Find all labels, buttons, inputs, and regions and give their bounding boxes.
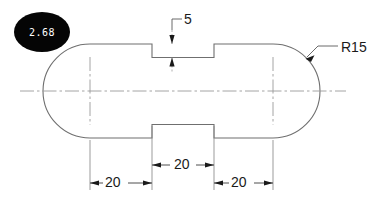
- dimension-label-segment-right: 20: [231, 175, 247, 189]
- arrowhead-right-a: [214, 181, 223, 186]
- arrowhead-notch-down: [169, 35, 174, 44]
- centerlines: [20, 57, 346, 125]
- arrowhead-middle-left: [152, 163, 161, 168]
- arrowhead-notch-up: [169, 58, 174, 67]
- dimension-segment-left: [90, 181, 152, 186]
- score-badge: 2.68: [14, 12, 70, 52]
- dimension-notch-depth: [169, 19, 182, 72]
- dimension-label-notch-depth: 5: [184, 12, 192, 26]
- leader-line-radius: [307, 46, 338, 57]
- score-badge-value: 2.68: [14, 12, 70, 52]
- dimension-radius: [306, 46, 339, 62]
- technical-drawing-screenshot: 5 R15 20 20 20 2.68: [0, 0, 377, 198]
- dimension-label-segment-left: 20: [105, 175, 121, 189]
- arrowhead-left-b: [143, 181, 152, 186]
- leader-line-notch-depth: [172, 19, 182, 30]
- arrowhead-left-a: [90, 181, 99, 186]
- dimension-label-segment-middle: 20: [174, 157, 190, 171]
- arrowhead-radius: [306, 55, 315, 62]
- arrowhead-right-b: [264, 181, 273, 186]
- arrowhead-middle-right: [205, 163, 214, 168]
- dimension-label-radius: R15: [341, 40, 367, 54]
